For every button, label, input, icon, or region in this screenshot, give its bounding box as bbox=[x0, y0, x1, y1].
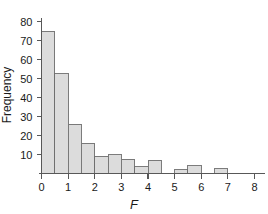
x-tick-label: 4 bbox=[145, 181, 151, 193]
x-tick-label: 7 bbox=[225, 181, 231, 193]
histogram-bar bbox=[215, 169, 228, 174]
y-tick-label: 60 bbox=[20, 54, 32, 66]
y-tick-label: 80 bbox=[20, 16, 32, 28]
histogram-bar bbox=[108, 155, 121, 174]
y-tick-label: 70 bbox=[20, 35, 32, 47]
x-tick-label: 0 bbox=[38, 181, 44, 193]
histogram-bar bbox=[68, 124, 81, 173]
histogram-bar bbox=[81, 143, 94, 173]
histogram-bar bbox=[95, 156, 108, 173]
histogram-figure: 012345678 1020304050607080 F Frequency bbox=[0, 0, 268, 214]
y-axis-title: Frequency bbox=[0, 67, 14, 124]
x-axis-title: F bbox=[130, 197, 139, 212]
x-tick-label: 6 bbox=[198, 181, 204, 193]
histogram-bar bbox=[42, 31, 55, 173]
x-tick-label: 5 bbox=[172, 181, 178, 193]
histogram-bar bbox=[121, 159, 134, 173]
x-tick-label: 2 bbox=[92, 181, 98, 193]
x-axis-ticks: 012345678 bbox=[38, 174, 257, 193]
y-tick-label: 20 bbox=[20, 130, 32, 142]
x-tick-label: 8 bbox=[251, 181, 257, 193]
histogram-bar bbox=[55, 74, 68, 174]
x-tick-label: 1 bbox=[65, 181, 71, 193]
histogram-chart: 012345678 1020304050607080 F Frequency bbox=[0, 0, 268, 214]
y-tick-label: 50 bbox=[20, 73, 32, 85]
y-tick-label: 30 bbox=[20, 111, 32, 123]
histogram-bar bbox=[135, 167, 148, 174]
histogram-bar bbox=[148, 160, 161, 173]
x-tick-label: 3 bbox=[118, 181, 124, 193]
y-tick-label: 10 bbox=[20, 149, 32, 161]
histogram-bar bbox=[188, 166, 201, 174]
bars-layer bbox=[42, 31, 228, 173]
y-tick-label: 40 bbox=[20, 92, 32, 104]
histogram-bar bbox=[175, 170, 188, 174]
y-axis-ticks: 1020304050607080 bbox=[20, 16, 41, 161]
